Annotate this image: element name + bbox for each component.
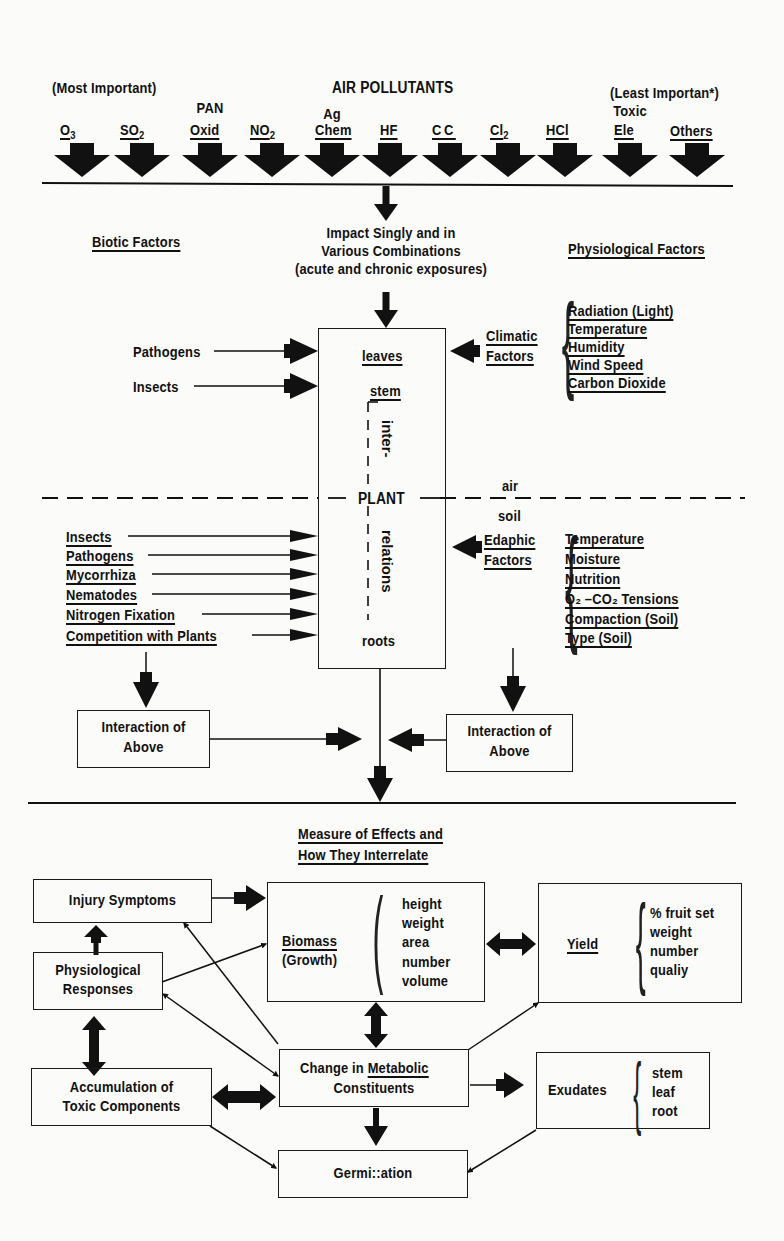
edaphic-label-2: Factors (484, 551, 532, 569)
biotic-below-item: Nematodes (66, 586, 137, 604)
plant-leaves: leaves (362, 347, 403, 365)
effects-heading-1: Measure of Effects and (298, 825, 443, 843)
edaphic-item: Temperature (565, 530, 644, 548)
edaphic-item: O₂ –CO₂ Tensions (565, 590, 679, 608)
biotic-below-item: Pathogens (66, 547, 133, 565)
climatic-item: Wind Speed (568, 356, 643, 374)
pollutant-0-group-label: PAN (182, 99, 237, 117)
impact-line2: Various Combinations (298, 242, 484, 260)
biomass-label: Biomass (282, 932, 337, 950)
biomass-item: area (402, 933, 429, 951)
pollutant-cc: CC (432, 121, 456, 139)
biotic-below-item: Insects (66, 528, 112, 546)
accumulation-line1: Accumulation of (44, 1078, 200, 1096)
physiological-interaction-line2: Above (455, 742, 564, 760)
biomass-item: height (402, 895, 442, 913)
pollutant-so2: SO2 (120, 121, 144, 144)
pollutant-o3: O3 (60, 121, 76, 144)
pollutant-arrows (54, 143, 725, 177)
metabolic-line2: Constituents (292, 1079, 455, 1097)
exudates-item: leaf (652, 1083, 675, 1101)
biotic-factors-heading: Biotic Factors (92, 233, 180, 251)
biomass-sub: (Growth) (282, 951, 337, 969)
physiological-interaction-line1: Interaction of (455, 722, 564, 740)
pollutant-pan-oxid: Oxid (190, 121, 219, 139)
pollutant-9-group-label: Toxic (602, 102, 657, 120)
biotic-interaction-line2: Above (86, 738, 200, 756)
physiological-responses-line2: Responses (42, 980, 154, 998)
edaphic-item: Type (Soil) (565, 629, 632, 647)
pollutant-cl2: Cl2 (490, 121, 509, 144)
pollutant-others: Others (670, 122, 713, 140)
biotic-interaction-line1: Interaction of (86, 718, 200, 736)
pollutant-hf: HF (380, 121, 398, 139)
biomass-brace: ( (373, 882, 384, 990)
biotic-below-item: Nitrogen Fixation (66, 606, 175, 624)
yield-brace: { (636, 890, 646, 990)
yield-item: weight (650, 923, 692, 941)
climatic-item: Carbon Dioxide (568, 374, 666, 392)
air-pollutants-title: AIR POLLUTANTS (332, 79, 453, 97)
most-important-label: (Most Important) (52, 79, 157, 97)
biotic-below-item: Mycorrhiza (66, 566, 136, 584)
plant-center-label: PLANT (358, 490, 405, 508)
metabolic-line1: Change in Metabolic (300, 1059, 429, 1077)
soil-label: soil (498, 507, 521, 525)
pollutant-hcl: HCl (546, 121, 569, 139)
plant-roots: roots (362, 632, 395, 650)
germination-label: Germi::ation (291, 1164, 454, 1182)
biotic-above-insects: Insects (133, 378, 179, 396)
exudates-item: stem (652, 1064, 683, 1082)
yield-item: % fruit set (650, 904, 714, 922)
accumulation-line2: Toxic Components (44, 1097, 200, 1115)
effects-heading-2: How They Interrelate (298, 846, 428, 864)
yield-item: qualiy (650, 961, 688, 979)
air-label: air (502, 477, 518, 495)
climatic-item: Radiation (Light) (568, 302, 673, 320)
pollutant-toxic-ele: Ele (614, 121, 634, 139)
yield-label: Yield (567, 935, 598, 953)
biomass-item: number (402, 953, 450, 971)
least-important-label: (Least Importan*) (610, 84, 719, 102)
climatic-label-1: Climatic (486, 327, 538, 345)
physiological-factors-heading: Physiological Factors (568, 240, 705, 258)
biomass-item: volume (402, 972, 448, 990)
edaphic-item: Compaction (Soil) (565, 610, 678, 628)
impact-line3: (acute and chronic exposures) (285, 260, 497, 278)
exudates-item: root (652, 1102, 678, 1120)
yield-item: number (650, 942, 698, 960)
biomass-item: weight (402, 914, 444, 932)
injury-symptoms-label: Injury Symptoms (46, 891, 200, 909)
plant-stem: stem (370, 382, 401, 400)
physiological-responses-line1: Physiological (42, 961, 154, 979)
plant-inter: inter- (379, 420, 396, 458)
plant-relations: relations (379, 530, 396, 593)
climatic-item: Temperature (568, 320, 647, 338)
edaphic-item: Nutrition (565, 570, 620, 588)
exudates-brace: { (633, 1052, 641, 1132)
biotic-above-pathogens: Pathogens (133, 343, 200, 361)
biotic-below-item: Competition with Plants (66, 627, 217, 645)
metabolic-box (279, 1049, 469, 1107)
edaphic-label-1: Edaphic (484, 531, 535, 549)
pollutant-ag-chem: Chem (315, 121, 352, 139)
pollutant-no2: NO2 (250, 121, 275, 144)
edaphic-item: Moisture (565, 550, 620, 568)
climatic-label-2: Factors (486, 347, 534, 365)
exudates-label: Exudates (548, 1081, 607, 1099)
climatic-item: Humidity (568, 338, 625, 356)
impact-line1: Impact Singly and in (298, 224, 484, 242)
